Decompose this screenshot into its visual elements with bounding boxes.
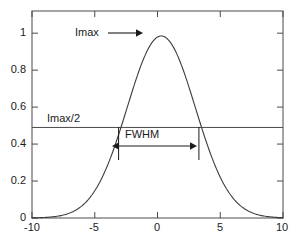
x-tick-label-5: 5 [202,221,238,233]
x-tick-label-0: 0 [139,221,175,233]
plot-canvas [0,0,292,242]
imax-half-label: Imax/2 [47,112,80,124]
y-tick-label-0.8: 0.8 [0,63,26,75]
imax-arrow [108,29,143,37]
x-tick-label--5: -5 [76,221,112,233]
x-tick-label-10: 10 [264,221,292,233]
y-axis-ticks [32,33,283,218]
gaussian-fwhm-figure: 1 0.8 0.6 0.4 0.2 0 -10 -5 0 5 10 Imax I… [0,0,292,242]
y-tick-label-1: 1 [0,26,26,38]
fwhm-double-arrow [112,142,197,149]
fwhm-label: FWHM [125,128,159,140]
intensity-curve [32,36,283,218]
x-tick-label--10: -10 [14,221,50,233]
y-tick-label-0.6: 0.6 [0,100,26,112]
imax-label: Imax [75,26,99,38]
y-tick-label-0.2: 0.2 [0,174,26,186]
y-tick-label-0.4: 0.4 [0,137,26,149]
